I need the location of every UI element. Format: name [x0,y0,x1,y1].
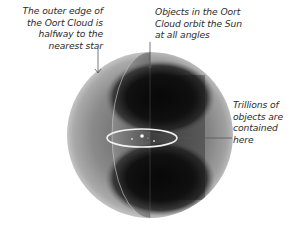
annotation-orbit-angles: Objects in the Oort Cloud orbit the Sun … [155,6,265,41]
annotation-line: nearest star [8,40,103,52]
annotation-line: contained [233,122,290,134]
annotation-line: objects are [233,111,290,123]
annotation-line: Cloud orbit the Sun [155,18,265,30]
annotation-line: the Oort Cloud is [8,17,103,29]
sun-icon [140,134,144,138]
annotation-line: Objects in the Oort [155,6,265,18]
annotation-outer-edge: The outer edge of the Oort Cloud is half… [8,5,103,51]
annotation-trillions: Trillions of objects are contained here [233,99,290,145]
annotation-line: The outer edge of [8,5,103,17]
annotation-line: Trillions of [233,99,290,111]
annotation-line: at all angles [155,29,265,41]
annotation-line: here [233,134,290,146]
annotation-line: halfway to the [8,28,103,40]
